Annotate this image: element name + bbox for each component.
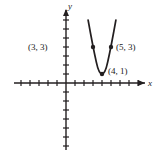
- parabola-graph-figure: (3, 3) (5, 3) (4, 1) x y: [0, 0, 158, 161]
- point-label-right: (5, 3): [116, 43, 136, 52]
- point-marker-4-1: [100, 72, 104, 76]
- point-marker-3-3: [91, 45, 95, 49]
- axis-group: [14, 9, 145, 150]
- x-axis-label: x: [148, 79, 152, 88]
- coordinate-plane-svg: [0, 0, 158, 161]
- point-label-left: (3, 3): [28, 43, 48, 52]
- vertex-label: (4, 1): [108, 67, 128, 76]
- y-axis-label: y: [68, 2, 72, 11]
- x-axis-arrow-icon: [138, 80, 145, 86]
- point-marker-5-3: [109, 45, 113, 49]
